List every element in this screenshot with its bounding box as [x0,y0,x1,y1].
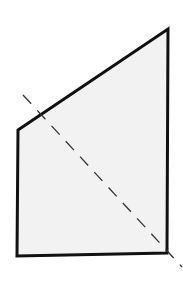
diagram-canvas [0,0,183,305]
quadrilateral-shape [17,29,168,256]
